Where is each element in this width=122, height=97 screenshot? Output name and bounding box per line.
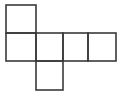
cube-net-figure: Cube net Net of a cube: one square on to… xyxy=(0,0,122,97)
figure-background xyxy=(0,0,122,97)
cube-net-drawing xyxy=(0,0,122,97)
